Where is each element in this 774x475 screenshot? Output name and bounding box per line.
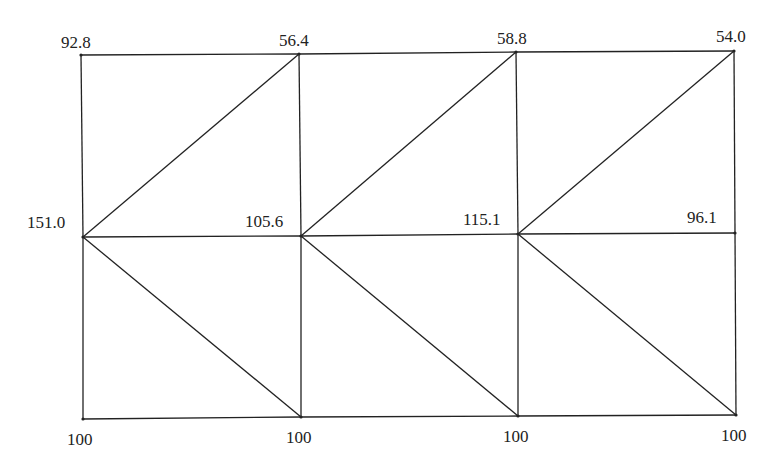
mesh-edge (83, 54, 299, 237)
mesh-edge (83, 417, 301, 419)
mesh-edge (83, 237, 301, 417)
mesh-edge (518, 233, 735, 234)
mesh-edge (301, 416, 518, 417)
mesh-node (733, 231, 736, 234)
mesh-edge (301, 52, 516, 236)
mesh-edge (301, 236, 518, 416)
node-label-middle-0: 151.0 (27, 214, 65, 231)
mesh-edge (299, 52, 516, 54)
node-label-top-3: 54.0 (716, 28, 746, 45)
mesh-edge (81, 54, 299, 55)
mesh-node (732, 49, 735, 52)
mesh-node (734, 413, 737, 416)
mesh-node (79, 53, 82, 56)
mesh-edge (83, 236, 301, 237)
node-label-bottom-0: 100 (67, 431, 93, 448)
mesh-edge (734, 51, 735, 233)
mesh-edge (518, 415, 736, 416)
mesh-edges (81, 51, 736, 419)
mesh-node (81, 417, 84, 420)
node-label-middle-3: 96.1 (687, 209, 717, 226)
mesh-edge (518, 234, 736, 415)
node-label-bottom-1: 100 (286, 429, 312, 446)
mesh-edge (301, 234, 518, 236)
mesh-node (514, 50, 517, 53)
mesh-edge (735, 233, 736, 415)
node-label-top-2: 58.8 (497, 30, 527, 47)
mesh-node (297, 52, 300, 55)
mesh-node (516, 232, 519, 235)
mesh-edge (516, 51, 734, 52)
node-label-bottom-3: 100 (721, 427, 747, 444)
mesh-edge (518, 51, 734, 234)
mesh-node (299, 415, 302, 418)
mesh-node (81, 235, 84, 238)
mesh-diagram (0, 0, 774, 475)
node-label-middle-2: 115.1 (463, 211, 501, 228)
node-label-top-1: 56.4 (279, 32, 309, 49)
node-label-middle-1: 105.6 (245, 213, 283, 230)
node-label-bottom-2: 100 (503, 428, 529, 445)
mesh-edge (516, 52, 518, 234)
mesh-edge (299, 54, 301, 236)
node-label-top-0: 92.8 (61, 34, 91, 51)
mesh-edge (81, 55, 83, 237)
mesh-node (299, 234, 302, 237)
mesh-node (516, 414, 519, 417)
